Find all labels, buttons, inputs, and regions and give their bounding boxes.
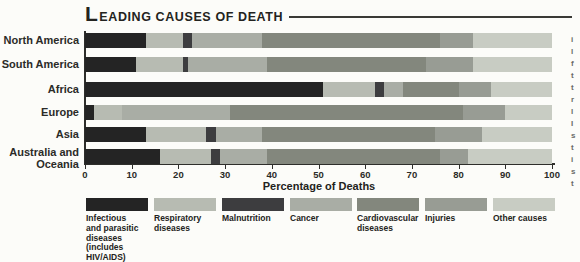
bar-segment — [375, 82, 384, 97]
tick-label: 60 — [352, 169, 378, 180]
legend-item: Cancer — [290, 198, 352, 224]
legend-swatch — [493, 198, 555, 211]
bar-segment — [136, 57, 183, 72]
cropped-text-fragment: r — [571, 96, 574, 104]
legend-item: Malnutrition — [222, 198, 284, 224]
bar-segment — [188, 57, 267, 72]
bar-row — [85, 149, 552, 164]
bar-segment — [183, 33, 192, 48]
cropped-text-fragment: i — [571, 36, 573, 44]
chart-title: L EADING CAUSES OF DEATH — [85, 3, 572, 24]
category-label: Australia and Oceania — [0, 147, 79, 171]
cropped-text-fragment: I — [571, 120, 573, 128]
bar-segment — [146, 33, 183, 48]
bar-segment — [473, 33, 552, 48]
tick-label: 70 — [399, 169, 425, 180]
chart-title-initial: L — [85, 3, 98, 24]
legend-swatch — [357, 198, 419, 211]
bar-segment — [267, 149, 440, 164]
legend-label: Other causes — [493, 214, 555, 224]
cropped-text-fragment: s — [571, 132, 575, 140]
tick-label: 50 — [306, 169, 332, 180]
tick-label: 30 — [212, 169, 238, 180]
bar-segment — [146, 127, 207, 142]
legend-swatch — [222, 198, 284, 211]
bar-segment — [384, 82, 403, 97]
bar-segment — [85, 33, 146, 48]
bar-segment — [230, 105, 464, 120]
bar-segment — [463, 105, 505, 120]
legend-item: Respiratorydiseases — [154, 198, 216, 234]
legend-label: Cancer — [290, 214, 352, 224]
bar-segment — [216, 127, 263, 142]
bar-segment — [482, 127, 552, 142]
bar-segment — [211, 149, 220, 164]
title-rule — [289, 16, 572, 18]
bar-row — [85, 33, 552, 48]
bar-segment — [505, 105, 552, 120]
bar-segment — [435, 127, 482, 142]
cropped-text-fragment: f — [571, 60, 574, 68]
cropped-text-fragment: t — [571, 144, 574, 152]
bar-segment — [473, 57, 552, 72]
bar-segment — [85, 57, 136, 72]
bar-row — [85, 57, 552, 72]
bar-segment — [459, 82, 492, 97]
bar-row — [85, 127, 552, 142]
bar-segment — [262, 127, 435, 142]
cropped-text-fragment: l — [571, 108, 573, 116]
bar-segment — [262, 33, 439, 48]
y-axis-line — [84, 31, 86, 165]
legend-item: Other causes — [493, 198, 555, 224]
bar-segment — [85, 105, 94, 120]
bar-segment — [323, 82, 374, 97]
legend-label: Malnutrition — [222, 214, 284, 224]
bar-segment — [122, 105, 229, 120]
bar-segment — [220, 149, 267, 164]
bar-segment — [440, 33, 473, 48]
chart-panel: L EADING CAUSES OF DEATH North AmericaSo… — [0, 0, 580, 262]
bar-segment — [94, 105, 122, 120]
bar-segment — [440, 149, 468, 164]
legend-swatch — [290, 198, 352, 211]
tick-label: 10 — [119, 169, 145, 180]
legend-label: Injuries — [425, 214, 487, 224]
legend-label: Cardiovasculardiseases — [357, 214, 419, 234]
cropped-text-fragment: i — [571, 156, 573, 164]
bar-segment — [85, 82, 323, 97]
category-label: Asia — [0, 129, 79, 141]
tick-label: 40 — [259, 169, 285, 180]
category-label: North America — [0, 35, 79, 47]
x-axis-title: Percentage of Deaths — [85, 180, 553, 192]
cropped-text-fragment: t — [571, 72, 574, 80]
bar-segment — [85, 127, 146, 142]
bar-segment — [206, 127, 215, 142]
cropped-text-fragment: t — [571, 180, 574, 188]
legend-swatch — [154, 198, 216, 211]
chart-title-text: EADING CAUSES OF DEATH — [98, 10, 283, 24]
tick-label: 20 — [165, 169, 191, 180]
bar-segment — [85, 149, 160, 164]
legend-item: Infectiousand parasiticdiseases(includes… — [86, 198, 148, 262]
bar-segment — [491, 82, 552, 97]
tick-label: 100 — [539, 169, 565, 180]
bar-segment — [426, 57, 473, 72]
legend-swatch — [425, 198, 487, 211]
tick-label: 90 — [492, 169, 518, 180]
legend-label: Respiratorydiseases — [154, 214, 216, 234]
cropped-text-fragment: s — [571, 168, 575, 176]
tick-label: 80 — [446, 169, 472, 180]
tick-label: 0 — [72, 169, 98, 180]
bar-segment — [160, 149, 211, 164]
category-label: Europe — [0, 107, 79, 119]
category-label: South America — [0, 59, 79, 71]
legend-item: Cardiovasculardiseases — [357, 198, 419, 234]
legend-item: Injuries — [425, 198, 487, 224]
cropped-text-fragment: l — [571, 48, 573, 56]
bar-row — [85, 82, 552, 97]
bar-row — [85, 105, 552, 120]
bar-segment — [267, 57, 426, 72]
bar-segment — [403, 82, 459, 97]
legend-label: Infectiousand parasiticdiseases(includes… — [86, 214, 148, 262]
category-label: Africa — [0, 84, 79, 96]
